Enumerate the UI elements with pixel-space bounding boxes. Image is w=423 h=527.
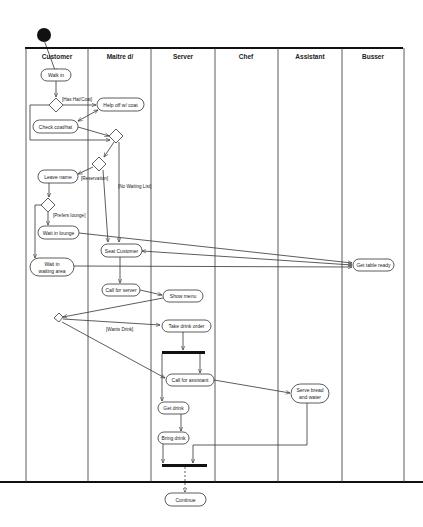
guard-prefers-lounge: [Prefers lounge] [53, 213, 85, 218]
node-bring-drink: Bring drink [158, 432, 189, 444]
lane-title-assistant: Assistant [295, 53, 325, 60]
node-wait-waiting-area: Wait in waiting area [30, 258, 74, 276]
svg-text:Help off w/ coat: Help off w/ coat [103, 102, 138, 108]
lane-title-chef: Chef [239, 53, 254, 60]
node-show-menu: Show menu [163, 290, 203, 302]
node-get-table-ready: Get table ready [353, 259, 394, 271]
activity-diagram: Customer Maitre d/ Server Chef Assistant… [0, 0, 423, 527]
node-take-drink-order: Take drink order [162, 320, 211, 332]
node-check-coat: Check coat/hat [33, 120, 78, 133]
fork-bar [162, 351, 205, 354]
svg-text:Bring drink: Bring drink [162, 435, 186, 441]
guard-has-hat-coat: [Has Hat/Coat] [62, 97, 92, 102]
lane-title-server: Server [173, 53, 194, 60]
svg-text:Call for assistant: Call for assistant [172, 377, 210, 383]
node-seat-customer: Seat Customer [101, 244, 142, 257]
lane-title-busser: Busser [362, 53, 385, 60]
svg-text:Get table ready: Get table ready [356, 262, 391, 268]
svg-text:Take drink order: Take drink order [169, 323, 205, 329]
decision-has-coat [49, 98, 63, 112]
svg-text:Wait in lounge: Wait in lounge [43, 230, 75, 236]
lane-title-customer: Customer [42, 53, 73, 60]
svg-text:Walk in: Walk in [48, 72, 64, 78]
decision-reservation [92, 157, 106, 171]
svg-text:Leave name: Leave name [44, 174, 72, 180]
svg-text:waiting area: waiting area [39, 268, 66, 274]
node-walk-in: Walk in [41, 69, 71, 81]
decision-wants-drink [54, 313, 63, 322]
svg-text:Continue: Continue [175, 497, 195, 503]
decision-prefers-lounge [41, 198, 55, 212]
node-get-drink: Get drink [158, 402, 189, 414]
join-bar [162, 464, 207, 467]
node-wait-lounge: Wait in lounge [38, 226, 79, 239]
lane-title-maitre: Maitre d/ [107, 53, 134, 60]
svg-text:Get drink: Get drink [163, 405, 184, 411]
svg-text:Call for server: Call for server [105, 287, 136, 293]
node-call-assistant: Call for assistant [166, 374, 214, 386]
node-serve-bread-water: Serve bread and water [291, 384, 329, 403]
guard-no-waiting-list: [No Waiting List] [118, 184, 151, 189]
merge-node [109, 129, 123, 143]
node-continue: Continue [165, 493, 206, 506]
initial-node [37, 28, 51, 42]
svg-text:Seat Customer: Seat Customer [105, 248, 139, 254]
svg-text:Show menu: Show menu [170, 293, 197, 299]
svg-text:Check coat/hat: Check coat/hat [39, 124, 73, 130]
svg-text:Serve bread: Serve bread [296, 387, 323, 393]
svg-text:and water: and water [299, 394, 321, 400]
node-leave-name: Leave name [38, 170, 78, 183]
svg-text:Wait in: Wait in [44, 261, 59, 267]
node-help-off-coat: Help off w/ coat [97, 98, 144, 111]
guard-wants-drink: [Wants Drink] [106, 327, 133, 332]
node-call-server: Call for server [102, 284, 140, 296]
